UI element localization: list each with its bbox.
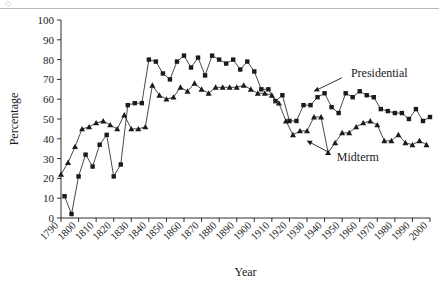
annotation-label-midterm: Midterm [337, 150, 380, 164]
marker-presidential [386, 109, 390, 113]
y-tick-label: 70 [43, 73, 55, 85]
marker-midterm [100, 118, 106, 123]
x-tick-label: 2000 [407, 220, 430, 243]
marker-midterm [65, 160, 71, 165]
x-tick-label: 1810 [73, 220, 96, 243]
marker-presidential [62, 194, 66, 198]
marker-presidential [315, 95, 319, 99]
x-tick-label: 1960 [337, 220, 360, 243]
marker-presidential [210, 53, 214, 57]
y-tick-label: 90 [43, 34, 55, 46]
marker-midterm [367, 118, 373, 123]
marker-presidential [217, 57, 221, 61]
marker-midterm [72, 144, 78, 149]
marker-presidential [196, 55, 200, 59]
marker-midterm [353, 124, 359, 129]
marker-presidential [421, 119, 425, 123]
marker-presidential [182, 53, 186, 57]
marker-presidential [147, 57, 151, 61]
marker-presidential [329, 105, 333, 109]
marker-midterm [192, 80, 198, 85]
marker-presidential [343, 91, 347, 95]
x-tick-label: 1910 [249, 220, 272, 243]
marker-presidential [336, 111, 340, 115]
x-tick-label: 1920 [266, 220, 289, 243]
marker-presidential [414, 107, 418, 111]
marker-presidential [252, 69, 256, 73]
x-tick-label: 1870 [178, 220, 201, 243]
marker-presidential [154, 59, 158, 63]
marker-midterm [177, 84, 183, 89]
marker-midterm [395, 132, 401, 137]
marker-midterm [332, 140, 338, 145]
marker-midterm [114, 126, 120, 131]
marker-presidential [161, 71, 165, 75]
marker-presidential [83, 152, 87, 156]
marker-presidential [393, 111, 397, 115]
x-tick-label: 1880 [196, 220, 219, 243]
marker-presidential [97, 143, 101, 147]
marker-presidential [224, 61, 228, 65]
y-tick-label: 40 [43, 133, 55, 145]
marker-presidential [428, 115, 432, 119]
marker-presidential [90, 164, 94, 168]
marker-midterm [416, 138, 422, 143]
marker-presidential [112, 174, 116, 178]
marker-midterm [170, 94, 176, 99]
marker-presidential [379, 107, 383, 111]
marker-midterm [58, 171, 64, 176]
marker-presidential [238, 67, 242, 71]
x-tick-label: 1900 [231, 220, 254, 243]
x-tick-label: 1800 [55, 220, 78, 243]
x-tick-label: 1860 [161, 220, 184, 243]
marker-presidential [76, 174, 80, 178]
marker-presidential [119, 162, 123, 166]
marker-presidential [140, 101, 144, 105]
marker-midterm [86, 124, 92, 129]
x-tick-label: 1830 [108, 220, 131, 243]
marker-presidential [245, 59, 249, 63]
marker-presidential [231, 57, 235, 61]
marker-presidential [301, 103, 305, 107]
x-tick-label: 1940 [301, 220, 324, 243]
annotation-label-presidential: Presidential [351, 66, 408, 80]
marker-presidential [175, 59, 179, 63]
marker-presidential [294, 119, 298, 123]
marker-presidential [266, 87, 270, 91]
x-tick-label: 1990 [389, 220, 412, 243]
marker-midterm [107, 122, 113, 127]
marker-presidential [400, 111, 404, 115]
marker-midterm [248, 86, 254, 91]
x-tick-label: 1930 [284, 220, 307, 243]
x-axis-title: Year [234, 265, 256, 279]
y-tick-label: 10 [43, 192, 55, 204]
y-tick-label: 60 [43, 93, 55, 105]
x-axis: 1790180018101820183018401850186018701880… [38, 218, 430, 242]
y-tick-label: 50 [43, 113, 55, 125]
marker-presidential [372, 95, 376, 99]
x-tick-label: 1980 [372, 220, 395, 243]
y-tick-label: 100 [38, 14, 55, 26]
marker-presidential [133, 101, 137, 105]
y-axis-title: Percentage [7, 93, 21, 146]
x-tick-label: 1790 [38, 220, 61, 243]
marker-presidential [203, 73, 207, 77]
marker-midterm [149, 82, 155, 87]
y-tick-label: 30 [43, 153, 55, 165]
marker-midterm [423, 142, 429, 147]
marker-presidential [168, 77, 172, 81]
marker-presidential [259, 87, 263, 91]
x-tick-label: 1850 [143, 220, 166, 243]
marker-presidential [365, 93, 369, 97]
marker-presidential [407, 117, 411, 121]
marker-presidential [308, 103, 312, 107]
y-tick-label: 80 [43, 54, 55, 66]
marker-midterm [241, 82, 247, 87]
marker-midterm [374, 122, 380, 127]
x-tick-label: 1820 [91, 220, 114, 243]
voter-turnout-chart: 0102030405060708090100 17901800181018201… [0, 0, 439, 282]
marker-presidential [350, 95, 354, 99]
marker-midterm [142, 124, 148, 129]
marker-presidential [280, 93, 284, 97]
x-tick-label: 1970 [354, 220, 377, 243]
